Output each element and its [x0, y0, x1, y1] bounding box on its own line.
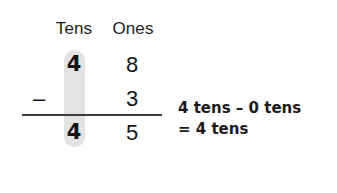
subtraction-rule: [22, 114, 162, 116]
minuend-ones-digit: 8: [112, 54, 152, 76]
explanation-line-2: = 4 tens: [178, 119, 330, 140]
minuend-tens-digit: 4: [54, 54, 94, 75]
result-tens-digit: 4: [54, 122, 94, 143]
explanation-line-1: 4 tens – 0 tens: [178, 98, 330, 119]
explanation-text: 4 tens – 0 tens = 4 tens: [178, 98, 330, 140]
result-ones-digit: 5: [112, 122, 152, 144]
subtraction-worksheet: Tens Ones 4 8 – 3 4 5 4 tens – 0 tens = …: [0, 0, 337, 193]
column-header-tens: Tens: [44, 19, 104, 39]
minus-operator: –: [26, 88, 52, 110]
subtrahend-ones-digit: 3: [112, 88, 152, 110]
column-header-ones: Ones: [103, 19, 163, 39]
